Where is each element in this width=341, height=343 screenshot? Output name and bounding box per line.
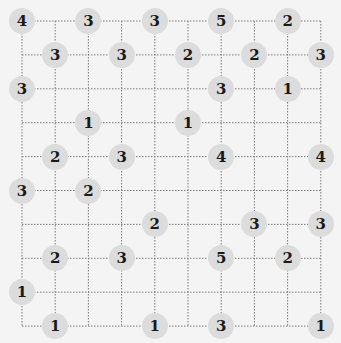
island-node[interactable]: 3 [109,245,135,271]
island-node[interactable]: 1 [75,110,101,136]
island-node[interactable]: 4 [208,144,234,170]
island-node[interactable]: 1 [9,279,35,305]
island-node[interactable]: 4 [9,8,35,34]
puzzle-board[interactable]: 433523322333111234432233235211131 [0,0,341,343]
island-node[interactable]: 2 [142,211,168,237]
island-node[interactable]: 3 [109,144,135,170]
island-node[interactable]: 1 [308,313,334,339]
island-node[interactable]: 2 [275,8,301,34]
island-node[interactable]: 3 [9,76,35,102]
island-node[interactable]: 2 [275,245,301,271]
island-node[interactable]: 3 [142,8,168,34]
island-node[interactable]: 3 [42,42,68,68]
island-node[interactable]: 1 [142,313,168,339]
island-node[interactable]: 5 [208,8,234,34]
island-node[interactable]: 1 [275,76,301,102]
island-node[interactable]: 2 [75,178,101,204]
island-node[interactable]: 4 [308,144,334,170]
island-node[interactable]: 1 [175,110,201,136]
island-node[interactable]: 3 [208,76,234,102]
island-node[interactable]: 3 [109,42,135,68]
island-node[interactable]: 3 [9,178,35,204]
island-node[interactable]: 3 [308,42,334,68]
island-node[interactable]: 2 [42,144,68,170]
island-node[interactable]: 2 [175,42,201,68]
island-node[interactable]: 3 [308,211,334,237]
